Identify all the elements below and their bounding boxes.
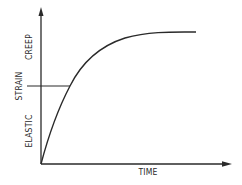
strain-curve [41,32,196,164]
creep-label: CREEP [24,34,34,60]
diagram-canvas: CREEP STRAIN ELASTIC TIME [0,0,242,185]
elastic-label: ELASTIC [24,114,34,147]
strain-axis-label: STRAIN [14,72,24,101]
time-axis-label: TIME [137,167,157,177]
x-axis-arrow-icon [222,161,232,166]
y-axis-arrow-icon [39,7,44,16]
